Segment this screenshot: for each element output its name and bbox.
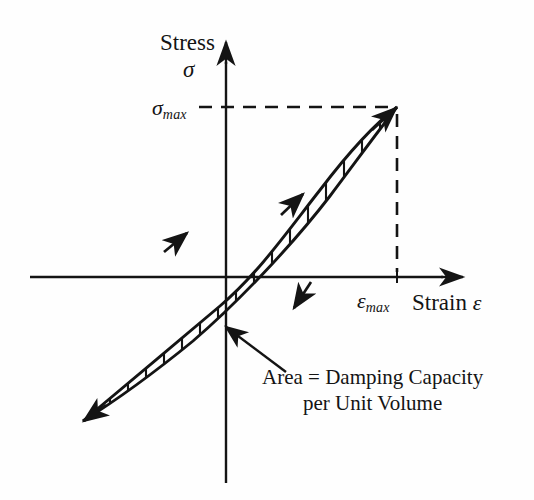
eps-max-glyph: ε bbox=[357, 288, 366, 313]
loading-direction-arrow bbox=[281, 194, 303, 215]
y-axis-symbol: σ bbox=[183, 57, 194, 83]
x-axis-title: Strain bbox=[412, 290, 467, 315]
sigma-max-label: σmax bbox=[152, 96, 187, 123]
lower-left-tip-arrow bbox=[84, 405, 106, 421]
area-annotation: Area = Damping Capacity per Unit Volume bbox=[262, 366, 483, 415]
unloading-direction-arrow bbox=[294, 282, 311, 308]
x-axis-symbol: ε bbox=[473, 290, 482, 315]
area-annotation-line1: Area = Damping Capacity bbox=[262, 365, 483, 389]
eps-max-label: εmax bbox=[357, 289, 390, 316]
upper-right-tip-arrow bbox=[372, 108, 396, 130]
sigma-max-subscript: max bbox=[163, 107, 187, 122]
left-branch-direction-arrow bbox=[164, 233, 187, 252]
area-annotation-line2: per Unit Volume bbox=[262, 392, 483, 416]
y-axis-title: Stress bbox=[160, 30, 215, 56]
eps-max-subscript: max bbox=[366, 300, 390, 315]
x-axis-title-group: Strain ε bbox=[412, 290, 481, 316]
hysteresis-plot-canvas bbox=[0, 0, 534, 500]
sigma-max-glyph: σ bbox=[152, 95, 163, 120]
stress-strain-diagram: Stress σ σmax εmax Strain ε Area = Dampi… bbox=[0, 0, 534, 500]
